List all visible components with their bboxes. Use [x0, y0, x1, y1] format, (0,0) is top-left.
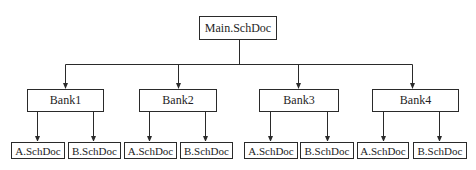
leaf-node-bank4-a: A.SchDoc: [357, 142, 409, 159]
leaf-node-label: A.SchDoc: [360, 145, 406, 157]
bank-node-bank1: Bank1: [27, 89, 104, 112]
root-node-label: Main.SchDoc: [205, 21, 271, 36]
leaf-node-label: B.SchDoc: [72, 145, 117, 157]
hierarchy-diagram: Main.SchDoc Bank1 Bank2 Bank3 Bank4 A.Sc…: [0, 0, 476, 170]
root-node-main-schdoc: Main.SchDoc: [199, 16, 277, 40]
leaf-node-label: A.SchDoc: [15, 145, 61, 157]
bank-node-label: Bank3: [283, 93, 314, 108]
bank-node-bank4: Bank4: [372, 89, 459, 112]
leaf-node-label: A.SchDoc: [248, 145, 294, 157]
bank-node-bank3: Bank3: [259, 89, 339, 112]
leaf-node-bank2-b: B.SchDoc: [180, 142, 233, 159]
leaf-node-bank1-a: A.SchDoc: [11, 142, 65, 159]
leaf-node-bank4-b: B.SchDoc: [413, 142, 467, 159]
leaf-node-label: A.SchDoc: [128, 145, 174, 157]
leaf-node-bank2-a: A.SchDoc: [124, 142, 177, 159]
leaf-node-label: B.SchDoc: [418, 145, 463, 157]
bank-node-label: Bank2: [162, 93, 193, 108]
leaf-node-label: B.SchDoc: [305, 145, 350, 157]
bank-node-label: Bank4: [400, 93, 431, 108]
bank-node-label: Bank1: [50, 93, 81, 108]
leaf-node-label: B.SchDoc: [184, 145, 229, 157]
bank-node-bank2: Bank2: [139, 89, 217, 112]
leaf-node-bank3-a: A.SchDoc: [244, 142, 298, 159]
leaf-node-bank1-b: B.SchDoc: [68, 142, 121, 159]
leaf-node-bank3-b: B.SchDoc: [300, 142, 354, 159]
